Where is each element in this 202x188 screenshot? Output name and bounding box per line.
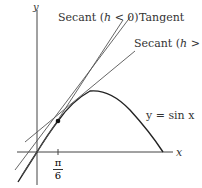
curve-label: y = sin x bbox=[146, 110, 194, 121]
tangent-label: Tangent bbox=[139, 12, 184, 23]
tick-denominator: 6 bbox=[52, 171, 64, 181]
sine-secant-diagram bbox=[0, 0, 202, 188]
secant-h-positive-line bbox=[25, 51, 135, 142]
y-axis-label: y bbox=[33, 2, 39, 12]
tick-numerator: π bbox=[52, 158, 64, 168]
tangency-point bbox=[56, 119, 61, 124]
secant-h-positive-label: Secant (h > 0) bbox=[134, 38, 202, 49]
secant-h-negative-label: Secant (h < 0) bbox=[58, 12, 139, 23]
x-axis-label: x bbox=[176, 147, 182, 158]
tangent-line bbox=[15, 16, 131, 170]
pi-over-6-label: π 6 bbox=[52, 158, 64, 181]
